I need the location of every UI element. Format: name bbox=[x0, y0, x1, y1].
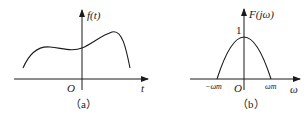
figure-canvas: f(t) O t （a） F(jω) 1 −ωm O ωm ω （b） bbox=[0, 0, 308, 120]
peak-value-label: 1 bbox=[236, 24, 242, 36]
origin-label: O bbox=[67, 82, 75, 94]
y-axis-label: F(jω) bbox=[248, 8, 274, 21]
panel-caption: （a） bbox=[70, 98, 97, 110]
x-axis-label: t bbox=[141, 82, 145, 94]
panel-caption: （b） bbox=[237, 98, 265, 110]
signal-curve bbox=[23, 32, 130, 68]
y-axis-label: f(t) bbox=[87, 9, 101, 22]
panel-a: f(t) O t （a） bbox=[14, 9, 148, 110]
tick-pos-omega-m: ωm bbox=[265, 82, 277, 91]
origin-label: O bbox=[234, 82, 242, 94]
panel-b: F(jω) 1 −ωm O ωm ω （b） bbox=[190, 8, 300, 110]
tick-neg-omega-m: −ωm bbox=[205, 82, 222, 91]
x-axis-label: ω bbox=[290, 83, 298, 95]
